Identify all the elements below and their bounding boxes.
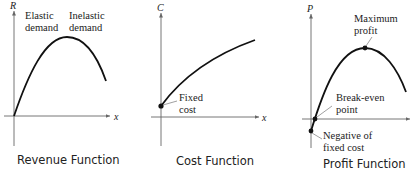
break-even-label-1: Break-even	[336, 92, 385, 103]
negative-fixed-cost-point	[309, 129, 314, 134]
fixed-cost-point	[158, 103, 163, 108]
cost-chart: C x Fixed cost Cost Function	[151, 2, 267, 168]
profit-chart: P Maximum profit Break-even point Negati…	[302, 3, 410, 171]
fixed-cost-label-1: Fixed	[179, 92, 204, 103]
negative-fixed-cost-label-1: Negative of	[323, 130, 373, 141]
maximum-profit-point	[363, 46, 368, 51]
break-even-point	[313, 117, 318, 122]
maximum-profit-label-1: Maximum	[354, 13, 398, 24]
elastic-label-2: demand	[25, 22, 59, 33]
negative-fixed-cost-leader	[312, 133, 322, 139]
maximum-profit-label-2: profit	[354, 25, 377, 36]
inelastic-label-2: demand	[69, 22, 103, 33]
revenue-caption: Revenue Function	[17, 153, 120, 167]
economic-functions-diagram: R x Elastic demand Inelastic demand Reve…	[0, 0, 412, 175]
negative-fixed-cost-label-2: fixed cost	[323, 142, 364, 153]
cost-caption: Cost Function	[176, 154, 254, 168]
profit-y-label: P	[306, 3, 313, 14]
profit-caption: Profit Function	[323, 157, 406, 171]
revenue-curve	[14, 37, 106, 116]
cost-y-label: C	[157, 2, 164, 13]
inelastic-label-1: Inelastic	[69, 10, 105, 21]
break-even-label-2: point	[336, 104, 358, 115]
cost-x-label: x	[261, 112, 267, 123]
revenue-x-label: x	[113, 111, 119, 122]
fixed-cost-label-2: cost	[179, 104, 196, 115]
revenue-chart: R x Elastic demand Inelastic demand Reve…	[4, 0, 120, 167]
maximum-profit-leader	[366, 37, 372, 46]
cost-curve	[161, 40, 255, 106]
elastic-label-1: Elastic	[25, 10, 54, 21]
revenue-y-label: R	[9, 0, 16, 11]
